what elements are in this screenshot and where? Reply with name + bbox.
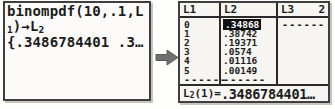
entry-value: .3486784401…: [221, 86, 315, 102]
list-editor-panel: L1 L2 L32 0 1 2 3 4 5 ------ .34868 .387…: [178, 1, 330, 103]
cursor-column-indicator: 2: [318, 3, 325, 16]
header-l1: L1: [180, 3, 221, 16]
column-l1: 0 1 2 3 4 5 ------: [180, 18, 221, 84]
right-arrow-icon: [155, 48, 179, 67]
entry-line: L2(1)=.3486784401…: [180, 84, 328, 101]
list1-subscript: 1: [7, 24, 13, 35]
l3-empty-row: ------: [278, 20, 328, 29]
entry-index: (1)=: [194, 87, 221, 100]
l2-empty-row: ------: [221, 75, 276, 84]
header-l2: L2: [221, 3, 278, 16]
header-l3: L32: [278, 3, 328, 16]
list2-subscript: 2: [38, 24, 44, 35]
result-line: {.3486784401 .3…: [7, 35, 149, 50]
column-l2: .34868 .38742 .19371 .0574 .01116 .00149…: [221, 18, 278, 84]
list-editor-header: L1 L2 L32: [180, 3, 328, 16]
l1-empty-row: ------: [180, 75, 219, 84]
command-line-2: 1)→L2: [7, 19, 149, 35]
column-l3: ------: [278, 18, 328, 84]
calculator-figure: binompdf(10,.1,L 1)→L2 {.3486784401 .3… …: [0, 0, 335, 109]
header-l3-label: L3: [281, 3, 294, 16]
list-editor-body: 0 1 2 3 4 5 ------ .34868 .38742 .19371 …: [180, 18, 328, 84]
store-to-l2: )→L: [13, 18, 39, 34]
entry-list-label: L: [183, 87, 190, 100]
home-screen-panel: binompdf(10,.1,L 1)→L2 {.3486784401 .3…: [3, 1, 151, 101]
command-line-1: binompdf(10,.1,L: [7, 4, 149, 19]
entry-list-subscript: 2: [190, 91, 195, 100]
